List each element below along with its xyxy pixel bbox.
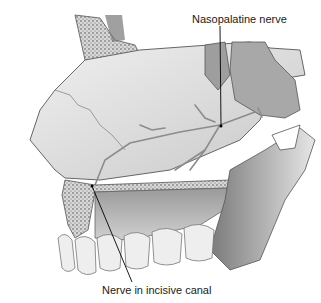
maxilla (210, 125, 315, 270)
anatomy-illustration: Nasopalatine nerve Nerve in incisive can… (0, 0, 321, 303)
label-nerve-incisive-canal: Nerve in incisive canal (102, 284, 211, 296)
label-nasopalatine-nerve: Nasopalatine nerve (192, 13, 287, 25)
